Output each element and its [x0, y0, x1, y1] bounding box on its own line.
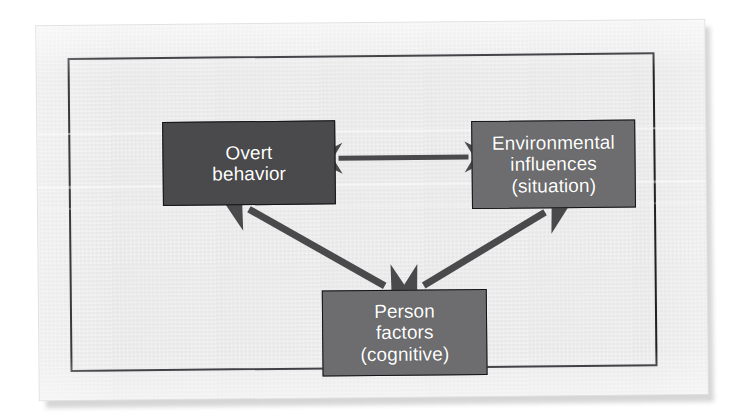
environmental-influences-line-3: (situation) [511, 174, 596, 196]
scanned-figure-page: Overt behavior Environmental influences … [0, 0, 734, 419]
figure-border-frame: Overt behavior Environmental influences … [68, 52, 658, 372]
arrow-environment-to-person [423, 212, 546, 285]
arrow-overt-to-person [249, 208, 385, 287]
person-factors-line-2: factors [376, 322, 434, 344]
overt-behavior-line-1: Overt [225, 142, 272, 164]
environmental-influences-line-1: Environmental [492, 132, 615, 154]
concept-box-overt-behavior: Overt behavior [162, 120, 336, 206]
page-sheet: Overt behavior Environmental influences … [36, 20, 708, 400]
concept-box-environmental-influences: Environmental influences (situation) [471, 119, 636, 209]
person-factors-line-3: (cognitive) [360, 343, 449, 365]
concept-box-person-factors: Person factors (cognitive) [322, 289, 488, 377]
environmental-influences-line-2: influences [510, 153, 597, 175]
person-factors-line-1: Person [374, 300, 435, 322]
overt-behavior-line-2: behavior [212, 163, 286, 185]
arrow-overt-to-environment [339, 157, 469, 158]
